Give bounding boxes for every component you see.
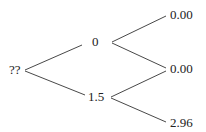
node-up-label: 0 [92,35,99,49]
leaf-middle-label: 0.00 [170,62,193,76]
edge-down-up [111,71,166,97]
edge-down-down [111,98,166,122]
node-down-label: 1.5 [88,90,104,104]
edge-up-up [112,16,166,42]
root-node-label: ?? [9,63,21,77]
leaf-upup-label: 0.00 [170,8,193,22]
edge-up-down [112,43,166,68]
edge-root-up [25,45,82,70]
leaf-downdown-label: 2.96 [170,116,193,130]
edge-root-down [25,71,85,95]
